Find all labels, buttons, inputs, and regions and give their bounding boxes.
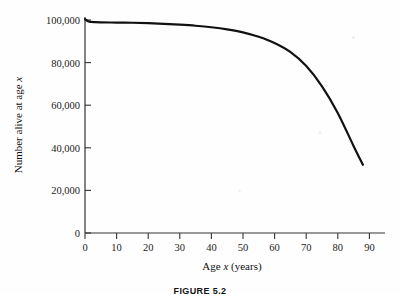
scan-speck <box>238 190 241 192</box>
x-tick-label: 50 <box>238 242 249 253</box>
scan-speck <box>352 36 355 39</box>
y-tick-label: 80,000 <box>51 58 80 69</box>
x-tick-label: 60 <box>269 242 280 253</box>
x-tick-label: 10 <box>111 242 122 253</box>
series-line-number-alive <box>85 19 363 165</box>
x-tick-label: 70 <box>301 242 312 253</box>
y-tick-label: 20,000 <box>51 185 80 196</box>
y-tick-label: 40,000 <box>51 143 80 154</box>
x-tick-label: 80 <box>333 242 344 253</box>
x-axis-ticks <box>85 233 369 239</box>
scan-speck <box>318 131 322 134</box>
x-axis-title: Age x (years) <box>202 260 262 273</box>
x-tick-label: 0 <box>82 242 87 253</box>
y-tick-label: 100,000 <box>46 15 80 26</box>
x-tick-label: 30 <box>175 242 186 253</box>
y-axis-ticks <box>85 20 91 233</box>
x-tick-label: 40 <box>206 242 217 253</box>
y-axis-title: Number alive at age x <box>12 77 24 174</box>
x-tick-label: 20 <box>143 242 154 253</box>
y-tick-label: 0 <box>75 228 80 239</box>
x-tick-label: 90 <box>364 242 375 253</box>
x-axis-tick-labels: 0 10 20 30 40 50 60 70 80 90 <box>82 242 374 253</box>
y-axis-tick-labels: 0 20,000 40,000 60,000 80,000 100,000 <box>46 15 80 239</box>
figure-caption: FIGURE 5.2 <box>0 286 400 296</box>
y-tick-label: 60,000 <box>51 100 80 111</box>
